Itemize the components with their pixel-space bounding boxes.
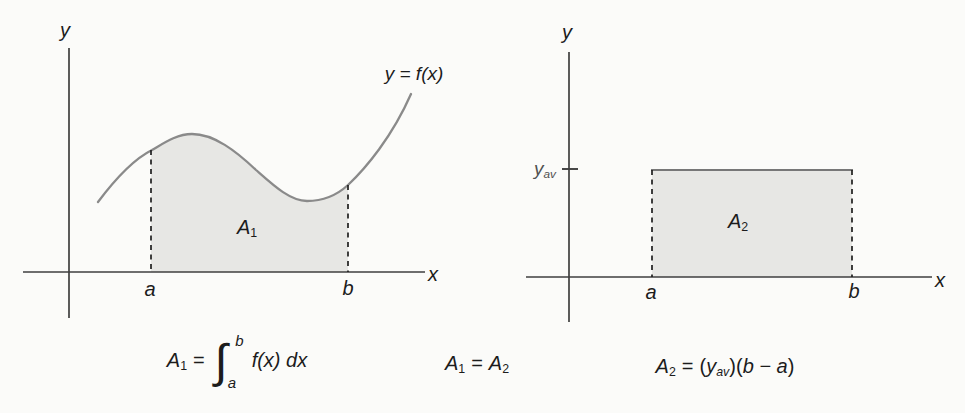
area-a2-label: A2 — [728, 211, 748, 231]
area-a2-sub: 2 — [741, 220, 748, 234]
left-b-label: b — [342, 278, 353, 298]
formula-a2-rectangle: A2 = (yav)(b − a) — [656, 355, 795, 378]
right-y-axis-label: y — [562, 22, 572, 42]
left-x-axis-label: x — [428, 264, 438, 284]
formula-a1-integral: A1 = ∫ b a f(x) dx — [167, 339, 307, 382]
yav-sub: av — [544, 166, 556, 179]
formula2-lhs: A1 — [445, 352, 465, 375]
formula3-lhs-sub: 2 — [669, 365, 676, 379]
formula3-rhs: (yav)(b − a) — [700, 355, 795, 378]
area-a1-main: A — [237, 216, 250, 238]
left-y-axis-label: y — [60, 20, 70, 40]
formula3-close-paren-2: ) — [788, 355, 795, 377]
curve-equation-label: y = f(x) — [385, 64, 444, 83]
integral-sign: ∫ — [215, 339, 228, 382]
right-y-axis-label-text: y — [562, 21, 572, 43]
area-a1-sub: 1 — [250, 226, 257, 240]
formula2-lhs-sub: 1 — [458, 362, 465, 376]
right-a-text: a — [645, 281, 656, 303]
average-value-figure: y x y = f(x) A1 a b y x yav A2 a b A1 = … — [0, 0, 965, 413]
formula1-equals: = — [193, 349, 205, 372]
formula3-equals: = — [682, 355, 694, 378]
formula1-lhs: A1 — [167, 349, 187, 372]
left-a-text: a — [144, 278, 155, 300]
shaded-area-a2 — [652, 170, 852, 277]
area-a2-main: A — [728, 210, 741, 232]
formula2-rhs: A2 — [489, 352, 509, 375]
formula2-rhs-sub: 2 — [502, 362, 509, 376]
left-a-label: a — [144, 279, 155, 299]
right-x-axis-label-text: x — [935, 269, 945, 291]
yav-main: y — [534, 158, 544, 179]
left-b-text: b — [342, 277, 353, 299]
right-x-axis-label: x — [935, 270, 945, 290]
yav-label: yav — [534, 159, 556, 178]
curve-equation-text: y = f(x) — [385, 63, 444, 84]
left-x-axis-label-text: x — [428, 263, 438, 285]
right-a-label: a — [645, 282, 656, 302]
left-y-axis-label-text: y — [60, 19, 70, 41]
right-b-text: b — [848, 280, 859, 302]
shaded-area-a1 — [151, 134, 348, 272]
right-b-label: b — [848, 281, 859, 301]
formula2-equals: = — [471, 352, 483, 375]
formula1-lhs-sub: 1 — [180, 360, 187, 374]
formula2-lhs-main: A — [445, 352, 458, 374]
formula-a1-equals-a2: A1 = A2 — [445, 352, 509, 375]
formula1-lhs-main: A — [167, 349, 180, 371]
formula2-rhs-main: A — [489, 352, 502, 374]
formula3-b-minus-a: b − a — [743, 355, 788, 377]
formula1-integrand: f(x) dx — [252, 349, 308, 372]
formula3-yav-main: y — [706, 355, 716, 377]
area-a1-label: A1 — [237, 217, 257, 237]
integral-upper-limit: b — [235, 332, 243, 349]
formula3-lhs-main: A — [656, 355, 669, 377]
formula3-open-paren-1: ( — [700, 355, 707, 377]
formula3-yav-sub: av — [716, 365, 729, 379]
integral-expression: ∫ b a — [214, 339, 243, 382]
formula3-lhs: A2 — [656, 355, 676, 378]
integral-lower-limit: a — [228, 375, 236, 392]
